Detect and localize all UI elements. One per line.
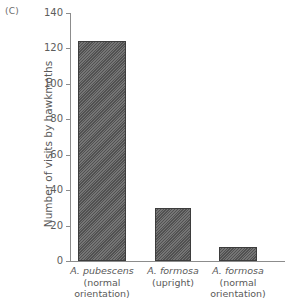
y-tick-mark (66, 190, 70, 191)
x-category-label: A. formosa(normalorientation) (195, 265, 281, 300)
y-tick-mark (66, 48, 70, 49)
y-tick-label: 20 (50, 221, 63, 231)
treatment-note: orientation) (59, 288, 145, 300)
x-axis-line (70, 261, 285, 262)
y-tick-label: 140 (44, 8, 63, 18)
treatment-note: (normal (195, 277, 281, 289)
y-tick-label: 80 (50, 114, 63, 124)
bar (155, 208, 191, 261)
y-tick-label: 40 (50, 185, 63, 195)
y-axis-line (70, 13, 71, 261)
y-tick-mark (66, 226, 70, 227)
bar (78, 41, 126, 261)
plot-area: 020406080100120140 A. pubescens(normalor… (70, 13, 285, 261)
y-tick-label: 100 (44, 79, 63, 89)
y-tick-label: 120 (44, 43, 63, 53)
bar (219, 247, 257, 261)
y-tick-mark (66, 261, 70, 262)
figure-panel-c: (C) Number of visits by hawkmoths 020406… (0, 0, 291, 306)
y-tick-mark (66, 119, 70, 120)
y-tick-mark (66, 84, 70, 85)
species-name: A. formosa (195, 265, 281, 277)
y-tick-label: 60 (50, 150, 63, 160)
y-tick-mark (66, 155, 70, 156)
treatment-note: orientation) (195, 288, 281, 300)
y-tick-mark (66, 13, 70, 14)
panel-label: (C) (5, 6, 19, 16)
